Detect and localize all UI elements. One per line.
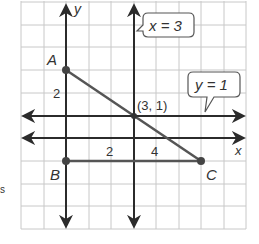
callout-y-equals-1: y = 1 — [188, 72, 240, 112]
side-mark: s — [0, 184, 5, 195]
callout-y-equals-1-text: y = 1 — [194, 76, 228, 93]
label-a: A — [46, 51, 57, 68]
coordinate-plane: y x 2 2 4 A B C (3, 1) x = 3 y = 1 s — [0, 0, 259, 244]
point-c — [197, 157, 205, 165]
point-intersection — [131, 113, 137, 119]
point-b — [62, 157, 70, 165]
label-b: B — [50, 166, 60, 183]
x-axis-label: x — [234, 143, 242, 158]
callout-x-equals-3: x = 3 — [137, 13, 194, 37]
callout-x-equals-3-text: x = 3 — [148, 17, 183, 34]
label-c: C — [206, 166, 217, 183]
y-axis-label: y — [73, 1, 82, 17]
x-tick-2: 2 — [106, 144, 113, 159]
x-tick-4: 4 — [151, 144, 158, 159]
y-tick-2: 2 — [53, 86, 60, 101]
label-intersection: (3, 1) — [137, 98, 167, 113]
point-a — [62, 66, 70, 74]
